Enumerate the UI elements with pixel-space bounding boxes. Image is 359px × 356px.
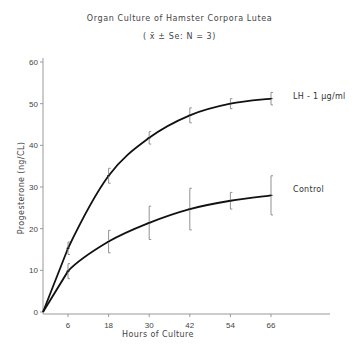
- error-bar: [107, 230, 111, 253]
- series-label-control: Control: [293, 185, 324, 194]
- x-tick-label: 6: [66, 321, 71, 330]
- error-bar: [107, 168, 111, 183]
- axes: 010203040506061830425466: [29, 58, 330, 330]
- error-bar: [270, 92, 274, 105]
- line-chart: 010203040506061830425466 Hours of Cultur…: [0, 0, 359, 356]
- y-tick-label: 30: [29, 183, 38, 192]
- series-line-lh: [43, 99, 271, 312]
- x-axis-label: Hours of Culture: [122, 330, 194, 339]
- error-bar: [188, 108, 192, 123]
- y-tick-label: 10: [29, 266, 38, 275]
- series-group: [43, 92, 273, 312]
- x-tick-label: 54: [226, 321, 235, 330]
- y-axis-label: Progesterone (ng/CL): [17, 142, 26, 235]
- error-bar: [270, 176, 274, 215]
- x-tick-label: 42: [185, 321, 194, 330]
- y-tick-label: 50: [29, 100, 38, 109]
- error-bar: [67, 264, 71, 279]
- series-line-control: [43, 195, 271, 312]
- y-tick-label: 60: [29, 58, 38, 67]
- error-bar: [188, 188, 192, 230]
- error-bar: [229, 99, 233, 109]
- y-tick-label: 0: [34, 308, 39, 317]
- x-tick-label: 18: [104, 321, 113, 330]
- y-tick-label: 40: [29, 141, 38, 150]
- error-bar: [148, 206, 152, 239]
- x-tick-label: 30: [145, 321, 154, 330]
- y-tick-label: 20: [29, 225, 38, 234]
- error-bar: [148, 132, 152, 145]
- x-tick-label: 66: [267, 321, 276, 330]
- error-bar: [229, 192, 233, 209]
- series-label-lh: LH - 1 µg/ml: [293, 92, 346, 101]
